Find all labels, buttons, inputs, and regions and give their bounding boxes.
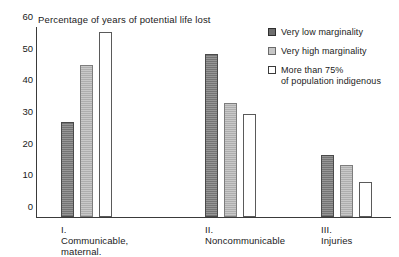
bar-g3-s2[interactable] [340, 165, 353, 217]
bar-g2-s2[interactable] [224, 103, 237, 217]
x-axis-label-3: III. Injuries [321, 224, 352, 246]
bar-g1-s2[interactable] [80, 65, 93, 217]
chart-title: Percentage of years of potential life lo… [38, 14, 211, 25]
legend-swatch-icon-2 [268, 47, 276, 55]
legend-item-1[interactable]: Very low marginality [268, 27, 396, 38]
legend-label-1: Very low marginality [281, 27, 363, 38]
bars-container [205, 27, 256, 217]
bar-g1-s1[interactable] [61, 122, 74, 217]
bar-g3-s3[interactable] [359, 182, 372, 217]
legend-item-3[interactable]: More than 75% of population indigenous [268, 65, 396, 87]
bar-g2-s3[interactable] [243, 114, 256, 217]
x-axis-label-1: I. Communicable, maternal. [61, 224, 128, 257]
y-tick-label-20: 20 [22, 137, 33, 148]
legend-item-2[interactable]: Very high marginality [268, 46, 396, 57]
y-tick-label-0: 0 [28, 201, 33, 212]
bar-g1-s3[interactable] [99, 32, 112, 217]
bar-g2-s1[interactable] [205, 54, 218, 217]
y-tick-label-60: 60 [22, 11, 33, 22]
y-tick-label-30: 30 [22, 106, 33, 117]
legend-swatch-icon-1 [268, 28, 276, 36]
chart-legend: Very low marginalityVery high marginalit… [268, 27, 396, 95]
bars-container [61, 27, 112, 217]
y-tick-label-50: 50 [22, 42, 33, 53]
y-tick-label-10: 10 [22, 169, 33, 180]
bar-g3-s1[interactable] [321, 155, 334, 217]
x-axis-label-2: II. Noncommunicable [205, 224, 285, 246]
legend-label-3: More than 75% of population indigenous [281, 65, 381, 87]
legend-swatch-icon-3 [268, 66, 276, 74]
y-tick-label-40: 40 [22, 74, 33, 85]
legend-label-2: Very high marginality [281, 46, 367, 57]
clipped-caption-fragment [20, 0, 220, 7]
